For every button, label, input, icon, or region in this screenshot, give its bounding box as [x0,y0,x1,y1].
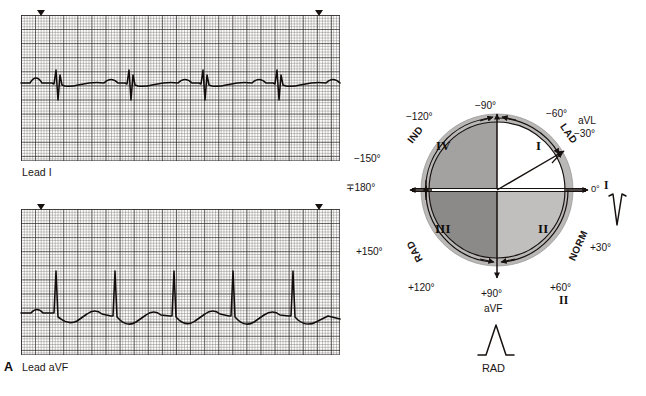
lead-label-i: I [604,179,609,191]
degree-label-plus-90: +90° [481,288,502,299]
ecg-waveform-lead-avf [21,209,340,355]
degree-label-minus-150: −150° [354,153,381,164]
degree-label-plus-120: +120° [408,282,435,293]
ecg-strip-lead-avf [21,209,340,355]
qrs-glyph-lead-1 [609,194,626,225]
ecg-waveform-lead-1 [21,15,340,161]
degree-label-minus-90: −90° [475,100,496,111]
axis-deviation-diagram: −90° −120° −150° ∓180° +150° +120° +90° … [340,0,646,396]
degree-label-minus-120: −120° [406,111,433,122]
quadrant-numeral-4: IV [436,139,451,154]
degree-label-plus-minus-180: ∓180° [346,182,375,193]
lead-label-avf: aVF [484,303,502,314]
quadrant-numeral-1: I [536,139,541,154]
ecg-caption-lead-avf: Lead aVF [22,361,68,373]
qrs-glyph-lead-avf [478,325,514,355]
degree-label-plus-150: +150° [356,246,383,257]
lead-label-ii: II [559,294,569,306]
ecg-caption-lead-1: Lead I [22,166,52,178]
ecg-strip-lead-1 [21,15,340,161]
conclusion-label-rad: RAD [482,362,505,374]
degree-label-plus-60: +60° [550,282,571,293]
degree-label-minus-60: −60° [546,108,567,119]
quadrant-numeral-3: III [435,222,451,237]
degree-label-plus-30: +30° [590,242,611,253]
panel-letter: A [4,360,13,374]
figure-root: Lead I A Lead aVF [0,0,646,396]
quadrant-numeral-2: II [538,222,549,237]
axis-circle-svg [340,0,646,396]
lead-label-avl: aVL [578,115,596,126]
degree-label-0: 0° [591,183,600,194]
